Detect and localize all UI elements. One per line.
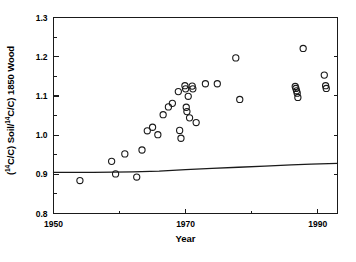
data-point (321, 72, 327, 78)
data-point (109, 158, 115, 164)
plot-frame (54, 18, 338, 214)
data-point (134, 174, 140, 180)
reference-curve (54, 163, 338, 172)
y-tick-label: 0.8 (36, 209, 48, 219)
data-point (186, 115, 192, 121)
data-point (149, 124, 155, 130)
y-tick-label: 1.3 (36, 13, 48, 23)
data-points (77, 45, 330, 183)
data-point (185, 93, 191, 99)
data-point (160, 112, 166, 118)
data-point (193, 119, 199, 125)
data-point (122, 151, 128, 157)
data-point (169, 100, 175, 106)
data-point (237, 96, 243, 102)
data-point (202, 81, 208, 87)
data-point (77, 177, 83, 183)
y-tick-label: 1.1 (36, 91, 48, 101)
data-point (155, 132, 161, 138)
data-point (214, 81, 220, 87)
data-point (165, 104, 171, 110)
data-point (184, 108, 190, 114)
y-tick-label: 1.2 (36, 52, 48, 62)
y-tick-label: 0.9 (36, 169, 48, 179)
chart-figure: (14C/C) Soil/14C/C) 1850 Wood 0.80.91.01… (0, 0, 356, 262)
x-tick-label: 1950 (44, 219, 63, 229)
axis-tick-labels: 0.80.91.01.11.21.3195019701990 (36, 13, 328, 229)
x-axis-title: Year (175, 233, 195, 244)
data-point (139, 147, 145, 153)
axis-ticks (54, 18, 338, 214)
data-point (177, 127, 183, 133)
data-point (175, 88, 181, 94)
trend-line (54, 163, 338, 172)
x-tick-label: 1970 (176, 219, 195, 229)
scatter-plot: 0.80.91.01.11.21.3195019701990 Year (0, 0, 356, 262)
data-point (178, 135, 184, 141)
data-point (233, 55, 239, 61)
plot-box (54, 18, 338, 214)
x-tick-label: 1990 (308, 219, 327, 229)
x-axis-title-text: Year (175, 233, 195, 244)
y-tick-label: 1.0 (36, 130, 48, 140)
data-point (295, 94, 301, 100)
data-point (300, 45, 306, 51)
